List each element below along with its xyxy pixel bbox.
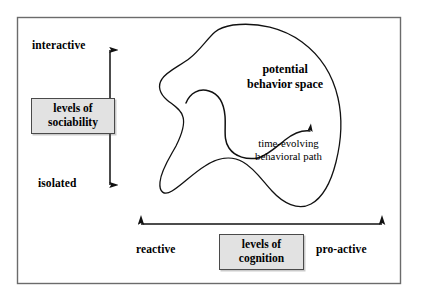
- caption-sociability-line-2: sociability: [38, 116, 108, 130]
- label-time-evolving-behavioral-path: time-evolving behavioral path: [255, 137, 322, 163]
- axis-label-isolated: isolated: [38, 177, 77, 190]
- caption-cognition-line-1: levels of: [226, 238, 297, 252]
- potential-behavior-space-blob: [160, 24, 341, 206]
- diagram-canvas: interactive isolated reactive pro-active…: [0, 0, 422, 298]
- potential-space-line-1: potential: [247, 62, 323, 77]
- label-potential-behavior-space: potential behavior space: [247, 62, 323, 92]
- caption-box-levels-of-sociability: levels of sociability: [31, 98, 115, 134]
- axis-label-interactive: interactive: [32, 39, 85, 52]
- axis-label-reactive: reactive: [136, 243, 176, 256]
- caption-sociability-line-1: levels of: [38, 102, 108, 116]
- blob-inner-fold: [186, 90, 258, 158]
- axis-label-pro-active: pro-active: [316, 243, 367, 256]
- caption-cognition-line-2: cognition: [226, 252, 297, 266]
- caption-box-levels-of-cognition: levels of cognition: [219, 234, 304, 270]
- potential-space-line-2: behavior space: [247, 77, 323, 92]
- path-label-line-2: behavioral path: [255, 150, 322, 163]
- path-label-line-1: time-evolving: [255, 137, 322, 150]
